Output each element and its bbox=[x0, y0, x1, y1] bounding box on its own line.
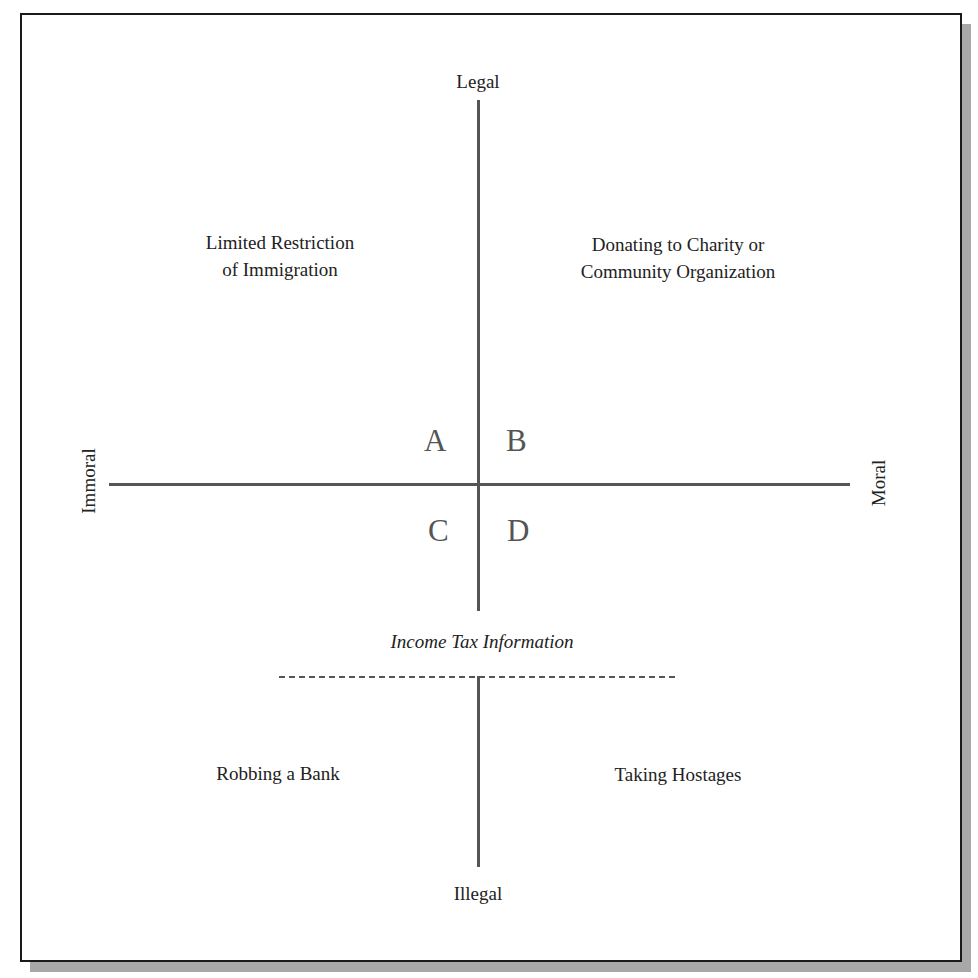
vertical-axis-lower bbox=[477, 676, 480, 867]
quadrant-label-b: B bbox=[506, 424, 527, 458]
quadrant-label-a: A bbox=[424, 424, 446, 458]
axis-label-legal: Legal bbox=[428, 70, 528, 94]
example-bottom-right: Taking Hostages bbox=[578, 763, 778, 787]
axis-label-moral: Moral bbox=[868, 438, 890, 528]
example-top-left: Limited Restriction of Immigration bbox=[160, 231, 400, 282]
example-top-left-line2: of Immigration bbox=[160, 258, 400, 282]
quadrant-label-d: D bbox=[507, 514, 529, 548]
example-top-right: Donating to Charity or Community Organiz… bbox=[548, 233, 808, 284]
horizontal-axis bbox=[109, 483, 850, 486]
example-top-left-line1: Limited Restriction bbox=[160, 231, 400, 255]
example-top-right-line1: Donating to Charity or bbox=[548, 233, 808, 257]
diagram-frame bbox=[20, 13, 962, 962]
example-bottom-left: Robbing a Bank bbox=[178, 762, 378, 786]
example-top-right-line2: Community Organization bbox=[548, 260, 808, 284]
axis-label-illegal: Illegal bbox=[428, 882, 528, 906]
quadrant-label-c: C bbox=[428, 514, 449, 548]
axis-label-immoral: Immoral bbox=[78, 436, 100, 526]
vertical-axis-upper bbox=[477, 100, 480, 611]
example-middle: Income Tax Information bbox=[332, 630, 632, 654]
